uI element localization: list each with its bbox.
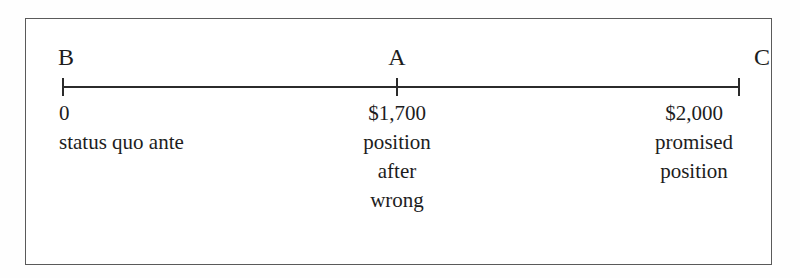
point-a-description-line-2: after: [317, 157, 477, 186]
number-line-figure: B A C 0 status quo ante $1,700 position …: [0, 0, 800, 278]
point-a-description-line-1: position: [317, 128, 477, 157]
point-a-description-line-3: wrong: [317, 186, 477, 215]
point-c-description-line-2: position: [614, 157, 774, 186]
point-b-description-line-1: status quo ante: [59, 128, 359, 157]
point-c-caption: $2,000 promised position: [614, 99, 774, 186]
axis-tick-b: [62, 78, 64, 96]
axis-tick-c: [738, 78, 740, 96]
point-label-b: B: [58, 44, 74, 70]
point-a-value: $1,700: [317, 99, 477, 128]
point-a-caption: $1,700 position after wrong: [317, 99, 477, 215]
point-b-caption: 0 status quo ante: [59, 99, 359, 157]
number-line-axis: [62, 86, 740, 88]
point-label-a: A: [366, 44, 428, 70]
point-label-c: C: [708, 44, 770, 70]
point-c-description-line-1: promised: [614, 128, 774, 157]
point-b-value: 0: [59, 99, 359, 128]
axis-tick-a: [396, 78, 398, 96]
point-c-value: $2,000: [614, 99, 774, 128]
